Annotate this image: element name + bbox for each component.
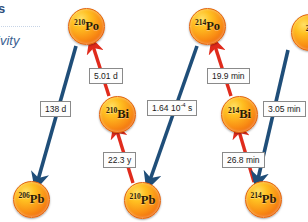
nuclide-label: 206Pb xyxy=(19,193,45,206)
half-life-label-hl-5d: 5.01 d xyxy=(89,68,123,84)
nuclide-label: 214Po xyxy=(195,20,220,33)
half-life-label-hl-22y: 22.3 y xyxy=(103,152,136,168)
nuclide-pb210: 210Pb xyxy=(124,182,161,219)
half-life-label-hl-138d: 138 d xyxy=(40,101,71,117)
nuclide-label: 214Bi xyxy=(228,108,251,121)
half-life-label-hl-268min: 26.8 min xyxy=(222,152,265,168)
half-life-label-hl-305min: 3.05 min xyxy=(263,101,306,117)
nuclide-po210: 210Po xyxy=(68,8,105,45)
nuclide-label: 214Pb xyxy=(251,193,277,206)
nuclide-po214: 214Po xyxy=(189,8,226,45)
slide-canvas: s ivity 210Po210Bi210Pb206Pb214Po214Bi21… xyxy=(0,0,308,222)
nuclide-pb206: 206Pb xyxy=(13,181,50,218)
nuclide-label: 210Bi xyxy=(106,108,129,121)
nuclide-bi210: 210Bi xyxy=(99,96,136,133)
nuclide-pb214: 214Pb xyxy=(245,181,282,218)
nuclide-label: 210Pb xyxy=(130,194,156,207)
half-life-label-hl-164: 1.64 10-4 s xyxy=(147,100,197,116)
nuclide-label: 21 xyxy=(306,26,308,39)
nuclide-label: 210Po xyxy=(74,20,99,33)
nuclide-bi214: 214Bi xyxy=(221,96,258,133)
half-life-label-hl-199min: 19.9 min xyxy=(207,68,250,84)
